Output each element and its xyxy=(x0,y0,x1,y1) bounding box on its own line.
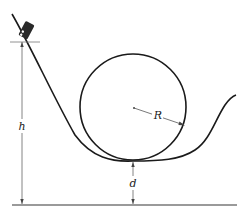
clearance-arrow-bottom-icon xyxy=(131,199,134,204)
height-arrow-bottom-icon xyxy=(20,199,23,204)
track-entrance xyxy=(12,14,133,161)
height-label: h xyxy=(18,120,25,133)
radius-label: R xyxy=(153,109,162,122)
loop-circle xyxy=(80,54,186,160)
track-exit xyxy=(133,95,236,161)
clearance-label: d xyxy=(129,177,136,190)
height-arrow-top-icon xyxy=(20,42,23,47)
roller-coaster-diagram: h d R xyxy=(0,0,245,211)
clearance-arrow-top-icon xyxy=(131,162,134,167)
